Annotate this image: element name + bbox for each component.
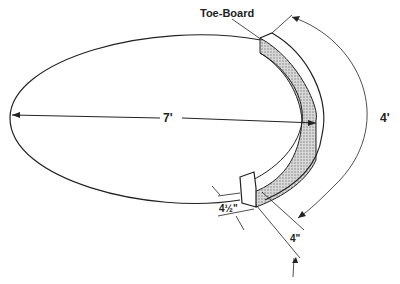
toe-board-diagram: 7' Toe-Board 4' 4½" 4" bbox=[0, 0, 400, 284]
arc-length-label: 4' bbox=[380, 111, 390, 125]
toe-board-end bbox=[240, 172, 256, 207]
diameter-label: 7' bbox=[163, 111, 173, 125]
diagram-svg: 7' Toe-Board 4' 4½" 4" bbox=[0, 0, 400, 284]
thickness-label: 4½" bbox=[219, 203, 238, 214]
height-label: 4" bbox=[290, 233, 301, 244]
toe-board-label: Toe-Board bbox=[200, 7, 254, 19]
